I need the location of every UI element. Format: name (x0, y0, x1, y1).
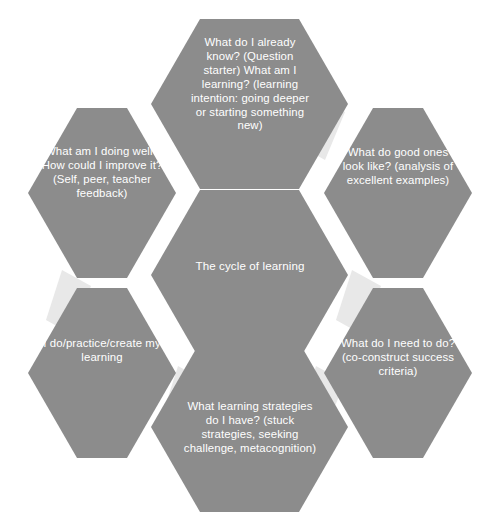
hexagon-group (28, 19, 472, 512)
hexagon-already-know[interactable] (151, 19, 348, 189)
hexagon-good-ones-look-like[interactable] (324, 108, 472, 278)
hexagon-canvas (0, 0, 493, 527)
hexagon-cycle-diagram: What do I already know? (Question starte… (0, 0, 493, 527)
hexagon-cycle-of-learning[interactable] (151, 190, 348, 360)
hexagon-doing-well-improve[interactable] (28, 108, 176, 278)
